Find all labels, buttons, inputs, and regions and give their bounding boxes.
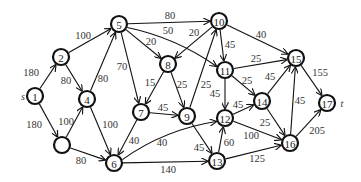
edge-weight-4-6: 100 xyxy=(102,119,118,130)
edge-weight-5-7: 70 xyxy=(117,61,128,72)
node-label: 5 xyxy=(116,19,122,31)
edge-weight-14-15: 45 xyxy=(265,71,276,82)
node-label: 8 xyxy=(165,59,171,71)
node-label: 13 xyxy=(212,156,224,168)
edge-weight-11-12: 45 xyxy=(210,88,221,99)
edge-weight-10-11: 45 xyxy=(225,39,236,50)
source-label: s xyxy=(21,91,25,102)
edge-weight-12-14: 45 xyxy=(233,99,244,110)
edge-weight-1-3: 180 xyxy=(26,119,42,130)
node-16: 16 xyxy=(282,135,298,151)
node-13: 13 xyxy=(209,153,225,169)
edge-5-to-10 xyxy=(128,21,210,23)
edge-weight-1-2: 180 xyxy=(23,67,39,78)
node-label: 6 xyxy=(111,158,117,170)
edge-1-to-3 xyxy=(39,104,57,137)
nodes-layer: 124567891011121314151617 xyxy=(27,13,335,171)
edge-weight-8-7: 15 xyxy=(145,77,156,88)
edge-weight-3-6: 80 xyxy=(76,155,87,166)
node-17: 17 xyxy=(319,95,335,111)
node-label: 12 xyxy=(220,113,231,125)
node-6: 6 xyxy=(106,155,122,171)
edge-weight-4-5: 80 xyxy=(98,73,109,84)
node-label: 14 xyxy=(257,96,269,108)
edge-weight-15-17: 155 xyxy=(312,67,328,78)
flow-network-graph: 1801801008010080801008050207020454015252… xyxy=(0,0,361,182)
edge-weight-6-12: 40 xyxy=(157,137,168,148)
edge-weight-5-11: 50 xyxy=(163,25,174,36)
node-label: 9 xyxy=(184,111,190,123)
node-label: 4 xyxy=(84,94,90,106)
edge-weight-9-13: 45 xyxy=(194,142,205,153)
node-7: 7 xyxy=(133,104,149,120)
node-11: 11 xyxy=(217,62,233,78)
node-label: 7 xyxy=(138,107,144,119)
node-label: 15 xyxy=(291,53,303,65)
node-1: 1 xyxy=(27,88,43,104)
edge-weight-16-15: 45 xyxy=(295,95,306,106)
sink-label: t xyxy=(341,98,344,109)
node-label: 16 xyxy=(285,138,297,150)
node-12: 12 xyxy=(217,110,233,126)
edge-weight-13-16: 125 xyxy=(249,153,265,164)
edge-1-to-2 xyxy=(40,65,56,89)
node-5: 5 xyxy=(111,16,127,32)
edge-weight-10-8: 20 xyxy=(189,27,200,38)
edge-weight-12-16: 100 xyxy=(243,130,259,141)
edge-weight-8-9: 25 xyxy=(177,79,188,90)
node-label: 10 xyxy=(214,16,226,28)
edge-weight-14-16: 25 xyxy=(260,117,271,128)
node-10: 10 xyxy=(211,13,227,29)
edge-weight-16-17: 205 xyxy=(309,125,325,136)
edge-13-to-12 xyxy=(219,127,224,152)
edge-weight-3-4: 100 xyxy=(58,116,74,127)
edge-weight-5-10: 80 xyxy=(165,10,176,21)
node-4: 4 xyxy=(79,91,95,107)
edge-weight-11-15: 25 xyxy=(251,53,262,64)
edge-10-to-11 xyxy=(220,30,224,61)
edge-weight-7-6: 40 xyxy=(129,135,140,146)
edge-weight-6-13: 140 xyxy=(160,164,176,175)
node-3 xyxy=(54,137,70,153)
node-label: 11 xyxy=(220,65,231,77)
edge-weight-11-14: 25 xyxy=(242,75,253,86)
node-label: 1 xyxy=(32,91,38,103)
edge-weight-2-4: 80 xyxy=(61,75,72,86)
node-2: 2 xyxy=(53,49,69,65)
edge-weight-10-15: 40 xyxy=(256,29,267,40)
edge-4-to-6 xyxy=(90,107,110,154)
node-label: 17 xyxy=(322,98,334,110)
edge-weight-7-9: 45 xyxy=(158,102,169,113)
node-15: 15 xyxy=(288,50,304,66)
edge-7-to-9 xyxy=(150,113,178,115)
edge-weight-2-5: 100 xyxy=(75,30,91,41)
node-14: 14 xyxy=(254,93,270,109)
node-label: 2 xyxy=(58,52,64,64)
node-9: 9 xyxy=(179,108,195,124)
node-8: 8 xyxy=(160,56,176,72)
node-circle xyxy=(54,137,70,153)
edge-weight-5-8: 20 xyxy=(146,36,157,47)
edge-weight-13-12: 60 xyxy=(224,137,235,148)
